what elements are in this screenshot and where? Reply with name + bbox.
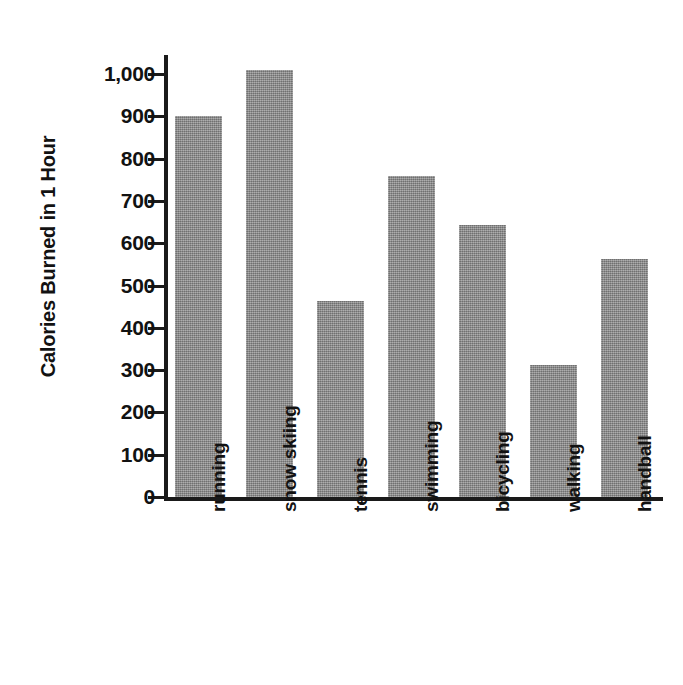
y-tick-label: 0 xyxy=(144,485,155,509)
plot-area: 01002003004005006007008009001,000 xyxy=(164,55,663,501)
y-tick-label: 300 xyxy=(121,358,155,382)
y-tick-label: 100 xyxy=(121,443,155,467)
x-axis-category-label: walking xyxy=(563,444,585,512)
y-tick-label: 200 xyxy=(121,400,155,424)
y-tick-label: 500 xyxy=(121,274,155,298)
bar xyxy=(175,116,222,497)
x-axis-category-label: swimming xyxy=(421,421,443,512)
y-tick-label: 800 xyxy=(121,147,155,171)
y-tick-label: 900 xyxy=(121,104,155,128)
x-axis-category-label: tennis xyxy=(350,457,372,512)
y-tick-label: 700 xyxy=(121,189,155,213)
y-axis-title: Calories Burned in 1 Hour xyxy=(37,92,60,422)
x-axis-line xyxy=(164,497,663,501)
y-tick-label: 600 xyxy=(121,231,155,255)
x-axis-category-label: bicycling xyxy=(492,431,514,512)
x-axis-category-label: handball xyxy=(634,435,656,512)
bar-chart-figure: Calories Burned in 1 Hour 01002003004005… xyxy=(0,0,683,685)
x-axis-category-label: snow skiing xyxy=(279,405,301,512)
y-tick-label: 400 xyxy=(121,316,155,340)
y-axis-line xyxy=(164,55,168,501)
y-tick-label: 1,000 xyxy=(104,62,155,86)
x-axis-category-label: running xyxy=(208,443,230,512)
